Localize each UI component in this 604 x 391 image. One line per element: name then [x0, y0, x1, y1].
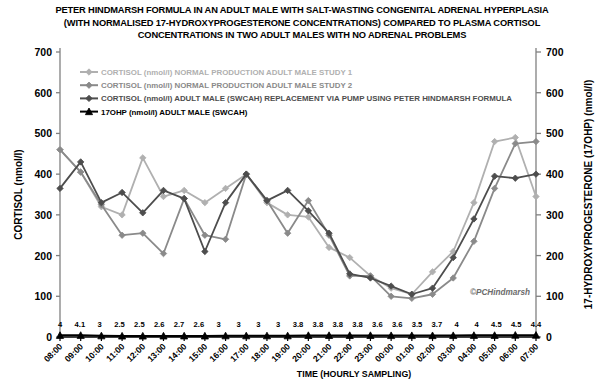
chart-container: PETER HINDMARSH FORMULA IN AN ADULT MALE… [0, 0, 604, 391]
point-value-label: 2.5 [134, 320, 145, 329]
chart-legend: CORTISOL (nmol/l) NORMAL PRODUCTION ADUL… [80, 68, 512, 117]
legend-label: CORTISOL (nmol/l) NORMAL PRODUCTION ADUL… [101, 68, 353, 77]
data-point-marker [491, 185, 497, 191]
y-tick-left-400: 400 [34, 168, 52, 180]
x-tick-label-0900: 09:00 [62, 341, 85, 364]
x-tick-label-2300: 23:00 [352, 341, 375, 364]
legend-label: CORTISOL (nmol/l) ADULT MALE (SWCAH) REP… [101, 94, 512, 103]
data-point-marker [119, 212, 125, 218]
x-tick-label-1400: 14:00 [166, 341, 189, 364]
x-tick-label-1900: 19:00 [269, 341, 292, 364]
legend-item-4[interactable]: 17OHP (nmol/l) ADULT MALE (SWCAH) [80, 108, 248, 117]
point-value-labels: 44.132.52.52.62.72.633333.83.83.83.83.63… [58, 320, 542, 329]
point-value-label: 3.8 [332, 320, 343, 329]
y-tick-right-400: 400 [546, 168, 564, 180]
x-tick-label-0300: 03:00 [435, 341, 458, 364]
x-tick-label-1200: 12:00 [125, 341, 148, 364]
point-value-label: 3.8 [352, 320, 363, 329]
x-tick-label-0500: 05:00 [476, 341, 499, 364]
y-tick-right-600: 600 [546, 87, 564, 99]
data-point-marker [533, 193, 539, 199]
point-value-label: 3.6 [392, 320, 403, 329]
y-tick-right-300: 300 [546, 209, 564, 221]
watermark: ©PCHindmarsh [470, 288, 530, 297]
y-axis-label-right: 17-HYDROXYPROGESTERONE (17OHP) (nmol/l) [583, 80, 594, 309]
x-axis-title: TIME (HOURLY SAMPLING) [297, 369, 411, 379]
point-value-label: 2.6 [194, 320, 205, 329]
point-value-label: 3 [236, 320, 240, 329]
legend-item-1[interactable]: CORTISOL (nmol/l) NORMAL PRODUCTION ADUL… [80, 68, 353, 77]
x-tick-label-0600: 06:00 [497, 341, 520, 364]
y-tick-right-200: 200 [546, 250, 564, 262]
y-tick-left-500: 500 [34, 127, 52, 139]
point-value-label: 3.8 [293, 320, 304, 329]
x-tick-label-0100: 01:00 [394, 341, 417, 364]
x-tick-label-0200: 02:00 [414, 341, 437, 364]
y-tick-left-300: 300 [34, 209, 52, 221]
legend-item-2[interactable]: CORTISOL (nmol/l) NORMAL PRODUCTION ADUL… [80, 81, 353, 90]
x-tick-label-1600: 16:00 [207, 341, 230, 364]
y-tick-right-500: 500 [546, 127, 564, 139]
series-layer [56, 134, 539, 339]
x-tick-label-1300: 13:00 [145, 341, 168, 364]
x-tick-label-1500: 15:00 [187, 341, 210, 364]
legend-item-3[interactable]: CORTISOL (nmol/l) ADULT MALE (SWCAH) REP… [80, 94, 512, 103]
y-tick-right-0: 0 [546, 331, 552, 343]
x-tick-label-2100: 21:00 [311, 341, 334, 364]
x-tick-label-1000: 10:00 [83, 341, 106, 364]
point-value-label: 3.6 [372, 320, 383, 329]
chart-svg: 0100200300400500600700010020030040050060… [0, 0, 604, 391]
data-point-marker [491, 173, 497, 179]
point-value-label: 2.5 [114, 320, 125, 329]
point-value-label: 4.5 [511, 320, 522, 329]
data-point-marker [86, 69, 92, 75]
x-tick-label-1700: 17:00 [228, 341, 251, 364]
point-value-label: 3 [256, 320, 260, 329]
data-point-marker [222, 236, 228, 242]
data-point-marker [533, 138, 539, 144]
point-value-label: 3.7 [432, 320, 443, 329]
data-point-marker [86, 82, 92, 88]
y-tick-left-0: 0 [46, 331, 52, 343]
point-value-label: 4 [455, 320, 460, 329]
point-value-label: 3 [276, 320, 280, 329]
y-tick-left-600: 600 [34, 87, 52, 99]
series-3 [57, 159, 539, 298]
legend-label: 17OHP (nmol/l) ADULT MALE (SWCAH) [101, 108, 248, 117]
data-point-marker [512, 134, 518, 140]
legend-label: CORTISOL (nmol/l) NORMAL PRODUCTION ADUL… [101, 81, 353, 90]
x-tick-label-1100: 11:00 [104, 341, 126, 363]
y-axis-label-left: CORTISOL (nmol/l) [13, 149, 24, 239]
x-tick-label-2200: 22:00 [332, 341, 355, 364]
x-tick-label-0400: 04:00 [456, 341, 479, 364]
y-tick-right-700: 700 [546, 46, 564, 58]
x-tick-label-1800: 18:00 [249, 341, 272, 364]
point-value-label: 4 [474, 320, 479, 329]
point-value-label: 4.5 [491, 320, 502, 329]
x-tick-label-2000: 20:00 [290, 341, 313, 364]
y-tick-left-200: 200 [34, 250, 52, 262]
data-point-marker [533, 171, 539, 177]
point-value-label: 2.6 [154, 320, 165, 329]
data-point-marker [202, 248, 208, 254]
data-point-marker [471, 216, 477, 222]
point-value-label: 3 [217, 320, 221, 329]
y-tick-right-100: 100 [546, 290, 564, 302]
point-value-label: 4.1 [75, 320, 86, 329]
point-value-label: 3.5 [412, 320, 423, 329]
y-tick-left-700: 700 [34, 46, 52, 58]
watermark-text: ©PCHindmarsh [470, 288, 530, 297]
data-point-marker [491, 138, 497, 144]
data-point-marker [160, 193, 166, 199]
point-value-label: 3 [98, 320, 102, 329]
x-tick-label-0000: 00:00 [373, 341, 396, 364]
x-tick-label-0800: 08:00 [42, 341, 65, 364]
x-tick-label-0700: 07:00 [518, 341, 541, 364]
series-4 [56, 332, 539, 339]
data-point-marker [140, 155, 146, 161]
point-value-label: 4.4 [531, 320, 542, 329]
y-tick-left-100: 100 [34, 290, 52, 302]
point-value-label: 2.7 [174, 320, 185, 329]
data-point-marker [471, 199, 477, 205]
point-value-label: 3.8 [313, 320, 324, 329]
